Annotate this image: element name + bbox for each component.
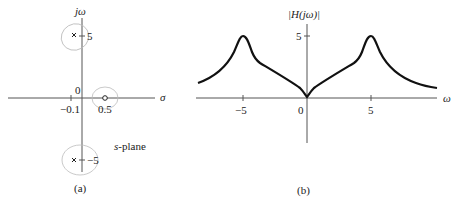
pole-marker-lower bbox=[72, 158, 76, 162]
origin-label: 0 bbox=[75, 85, 81, 96]
jw-axis-label: jω bbox=[75, 6, 86, 17]
tick-label-y-5: 5 bbox=[87, 31, 93, 42]
sigma-axis-label: σ bbox=[160, 92, 165, 103]
s-plane-label: s-plane bbox=[114, 141, 146, 152]
s-plane-suffix: -plane bbox=[118, 140, 145, 152]
magnitude-axis-label: |H(jω)| bbox=[288, 9, 320, 20]
tick-label-omega-5: 5 bbox=[368, 105, 374, 116]
magnitude-curve bbox=[198, 36, 437, 97]
tick-label-x-neg01: −0.1 bbox=[60, 104, 80, 115]
tick-label-omega-0: 0 bbox=[298, 105, 304, 116]
tick-label-x-05: 0.5 bbox=[98, 104, 112, 115]
figure-canvas bbox=[0, 0, 452, 204]
caption-b: (b) bbox=[297, 185, 310, 196]
zero-marker bbox=[103, 96, 108, 101]
tick-label-omega-neg5: −5 bbox=[235, 105, 247, 116]
caption-a: (a) bbox=[74, 183, 86, 194]
pole-marker-upper bbox=[72, 33, 76, 37]
tick-label-y-neg5: −5 bbox=[87, 155, 99, 166]
tick-label-mag-5: 5 bbox=[296, 31, 302, 42]
omega-axis-label: ω bbox=[443, 93, 451, 104]
